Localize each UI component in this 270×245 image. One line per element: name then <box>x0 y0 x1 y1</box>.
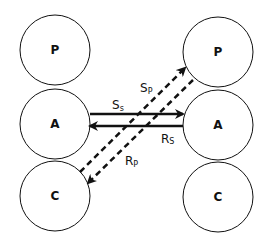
node-right-a: A <box>183 90 253 160</box>
node-label: A <box>213 118 223 132</box>
node-label: C <box>51 189 60 203</box>
dashed-arrow-down-left-icon <box>88 80 193 183</box>
right-column: P A C <box>183 17 253 232</box>
node-right-c: C <box>183 162 253 232</box>
diagram-canvas: P A C P A C Ss RS <box>0 0 270 245</box>
node-left-a: A <box>20 89 90 159</box>
edge-label-rs: RS <box>161 132 174 146</box>
edge-rp: RP <box>88 80 193 183</box>
node-label: P <box>214 45 223 59</box>
left-column: P A C <box>20 15 90 231</box>
node-left-p: P <box>20 15 90 85</box>
node-label: A <box>50 117 60 131</box>
edge-label-ss: Ss <box>112 98 124 113</box>
edge-ss: Ss <box>90 98 183 114</box>
edge-rs: RS <box>90 126 183 146</box>
node-label: P <box>51 43 60 57</box>
node-label: C <box>214 190 223 204</box>
node-right-p: P <box>183 17 253 87</box>
edge-label-rp: RP <box>125 154 138 169</box>
edge-label-sp: SP <box>140 81 153 96</box>
node-left-c: C <box>20 161 90 231</box>
